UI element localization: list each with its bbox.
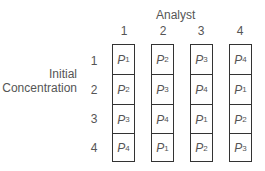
cell-r3-c4: P2 [230,104,251,134]
cell-subscript: 2 [242,115,246,124]
cell-r2-c4: P1 [230,74,251,104]
cell-r1-c3: P3 [191,45,212,74]
analyst-column-4: P4 P1 P2 P3 [229,44,252,162]
cell-symbol: P [156,141,164,155]
cell-subscript: 3 [203,55,207,64]
cell-symbol: P [117,83,125,97]
cell-symbol: P [234,53,242,67]
cell-r4-c3: P2 [191,133,212,162]
cell-subscript: 3 [125,115,129,124]
row-axis-title-line2: Concentration [2,81,77,95]
cell-r3-c2: P4 [152,104,173,134]
cell-subscript: 2 [164,55,168,64]
analyst-column-3: P3 P4 P1 P2 [190,44,213,162]
cell-subscript: 1 [242,85,246,94]
cell-r2-c1: P2 [113,74,134,104]
row-header-4: 4 [84,141,104,155]
cell-symbol: P [156,53,164,67]
cell-symbol: P [195,53,203,67]
row-header-3: 3 [84,112,104,126]
cell-subscript: 1 [125,55,129,64]
cell-symbol: P [156,113,164,127]
cell-subscript: 2 [125,85,129,94]
analyst-column-2: P2 P3 P4 P1 [151,44,174,162]
cell-subscript: 4 [164,115,168,124]
cell-symbol: P [234,141,242,155]
cell-r2-c2: P3 [152,74,173,104]
row-header-1: 1 [84,54,104,68]
cell-r1-c2: P2 [152,45,173,74]
cell-r1-c4: P4 [230,45,251,74]
cell-subscript: 1 [164,144,168,153]
cell-symbol: P [117,53,125,67]
cell-subscript: 3 [242,144,246,153]
row-header-2: 2 [84,83,104,97]
cell-r4-c2: P1 [152,133,173,162]
cell-symbol: P [117,113,125,127]
row-axis-title-line1: Initial [49,67,77,81]
cell-symbol: P [117,141,125,155]
analyst-column-1: P1 P2 P3 P4 [112,44,135,162]
cell-r2-c3: P4 [191,74,212,104]
column-header-3: 3 [191,24,211,38]
cell-subscript: 3 [164,85,168,94]
cell-r4-c4: P3 [230,133,251,162]
cell-symbol: P [234,83,242,97]
column-header-4: 4 [230,24,250,38]
cell-symbol: P [234,113,242,127]
cell-subscript: 2 [203,144,207,153]
cell-r4-c1: P4 [113,133,134,162]
column-axis-title: Analyst [156,8,195,22]
cell-symbol: P [156,83,164,97]
cell-r3-c1: P3 [113,104,134,134]
cell-r1-c1: P1 [113,45,134,74]
cell-r3-c3: P1 [191,104,212,134]
cell-symbol: P [195,141,203,155]
cell-subscript: 4 [242,55,246,64]
cell-subscript: 4 [125,144,129,153]
cell-subscript: 1 [203,115,207,124]
column-header-2: 2 [153,24,173,38]
column-header-1: 1 [114,24,134,38]
cell-subscript: 4 [203,85,207,94]
cell-symbol: P [195,113,203,127]
cell-symbol: P [195,83,203,97]
